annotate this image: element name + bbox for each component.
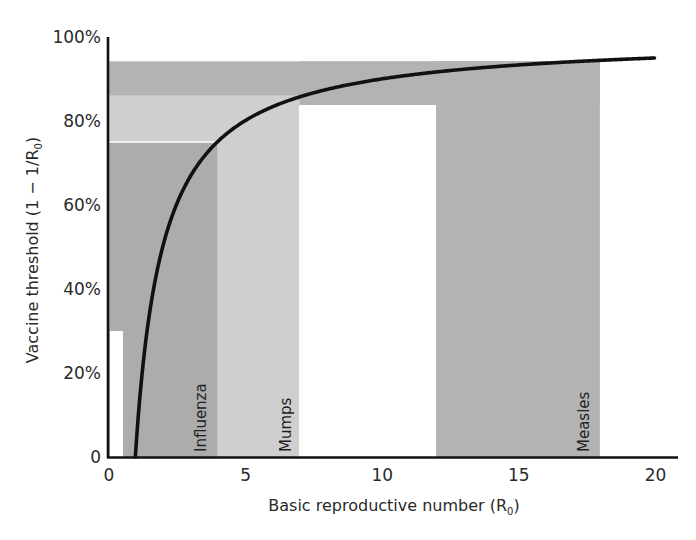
- x-tick-label: 0: [104, 465, 115, 485]
- white-gap: [299, 105, 436, 457]
- label-measles: Measles: [575, 391, 593, 452]
- y-tick-label: 20%: [63, 363, 101, 383]
- y-tick-label: 60%: [63, 195, 101, 215]
- y-axis-title: Vaccine threshold (1 − 1/R0): [23, 137, 44, 363]
- y-tick-labels: 020%40%60%80%100%: [52, 27, 101, 467]
- x-tick-label: 5: [240, 465, 251, 485]
- label-mumps: Mumps: [277, 397, 295, 452]
- y-tick-label: 100%: [52, 27, 101, 47]
- x-tick-label: 20: [645, 465, 667, 485]
- y-tick-label: 0: [90, 447, 101, 467]
- white-notch: [110, 331, 123, 457]
- label-influenza: Influenza: [192, 383, 210, 452]
- shaded-regions: [108, 61, 600, 457]
- y-tick-label: 80%: [63, 111, 101, 131]
- x-axis-title: Basic reproductive number (R0): [268, 496, 519, 517]
- y-tick-label: 40%: [63, 279, 101, 299]
- x-tick-labels: 05101520: [104, 465, 667, 485]
- vaccine-threshold-chart: InfluenzaMumpsMeasles 020%40%60%80%100% …: [0, 0, 696, 540]
- x-tick-label: 15: [508, 465, 530, 485]
- x-tick-label: 10: [371, 465, 393, 485]
